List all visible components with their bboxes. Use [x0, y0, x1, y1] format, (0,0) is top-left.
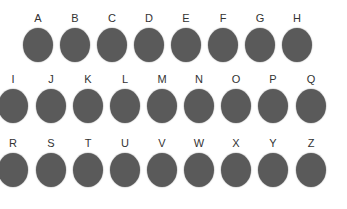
letter-label: L — [107, 73, 143, 85]
letter-label: P — [255, 73, 291, 85]
letter-option-g[interactable]: G — [242, 12, 278, 68]
circle-button[interactable] — [208, 28, 238, 62]
letter-option-u[interactable]: U — [107, 137, 143, 193]
letter-option-e[interactable]: E — [168, 12, 204, 68]
circle-button[interactable] — [73, 153, 103, 187]
letter-option-z[interactable]: Z — [293, 137, 329, 193]
letter-label: J — [33, 73, 69, 85]
letter-option-h[interactable]: H — [279, 12, 315, 68]
circle-button[interactable] — [258, 89, 288, 123]
letter-option-y[interactable]: Y — [255, 137, 291, 193]
letter-label: S — [33, 137, 69, 149]
circle-button[interactable] — [245, 28, 275, 62]
circle-button[interactable] — [296, 89, 326, 123]
circle-button[interactable] — [134, 28, 164, 62]
letter-option-n[interactable]: N — [181, 73, 217, 129]
circle-button[interactable] — [296, 153, 326, 187]
letter-option-o[interactable]: O — [218, 73, 254, 129]
circle-button[interactable] — [73, 89, 103, 123]
letter-label: U — [107, 137, 143, 149]
circle-button[interactable] — [282, 28, 312, 62]
circle-button[interactable] — [0, 89, 28, 123]
letter-label: X — [218, 137, 254, 149]
letter-option-r[interactable]: R — [0, 137, 31, 193]
letter-option-l[interactable]: L — [107, 73, 143, 129]
letter-option-i[interactable]: I — [0, 73, 31, 129]
letter-option-a[interactable]: A — [20, 12, 56, 68]
letter-label: M — [144, 73, 180, 85]
letter-option-p[interactable]: P — [255, 73, 291, 129]
letter-label: V — [144, 137, 180, 149]
letter-label: T — [70, 137, 106, 149]
circle-button[interactable] — [110, 153, 140, 187]
circle-button[interactable] — [60, 28, 90, 62]
letter-label: R — [0, 137, 31, 149]
letter-option-t[interactable]: T — [70, 137, 106, 193]
letter-label: C — [94, 12, 130, 24]
circle-button[interactable] — [36, 89, 66, 123]
letter-label: F — [205, 12, 241, 24]
letter-option-c[interactable]: C — [94, 12, 130, 68]
letter-option-b[interactable]: B — [57, 12, 93, 68]
letter-option-d[interactable]: D — [131, 12, 167, 68]
circle-button[interactable] — [147, 89, 177, 123]
letter-label: A — [20, 12, 56, 24]
letter-label: N — [181, 73, 217, 85]
circle-button[interactable] — [171, 28, 201, 62]
letter-label: Z — [293, 137, 329, 149]
letter-label: O — [218, 73, 254, 85]
circle-button[interactable] — [147, 153, 177, 187]
letter-label: B — [57, 12, 93, 24]
circle-button[interactable] — [36, 153, 66, 187]
letter-label: E — [168, 12, 204, 24]
circle-button[interactable] — [0, 153, 28, 187]
letter-label: Q — [293, 73, 329, 85]
circle-button[interactable] — [221, 153, 251, 187]
letter-label: Y — [255, 137, 291, 149]
letter-label: H — [279, 12, 315, 24]
letter-label: G — [242, 12, 278, 24]
letter-option-w[interactable]: W — [181, 137, 217, 193]
circle-button[interactable] — [221, 89, 251, 123]
letter-option-f[interactable]: F — [205, 12, 241, 68]
letter-option-x[interactable]: X — [218, 137, 254, 193]
circle-button[interactable] — [23, 28, 53, 62]
letter-label: I — [0, 73, 31, 85]
letter-label: D — [131, 12, 167, 24]
circle-button[interactable] — [184, 153, 214, 187]
letter-option-v[interactable]: V — [144, 137, 180, 193]
letter-label: W — [181, 137, 217, 149]
circle-button[interactable] — [258, 153, 288, 187]
circle-button[interactable] — [97, 28, 127, 62]
letter-option-s[interactable]: S — [33, 137, 69, 193]
circle-button[interactable] — [110, 89, 140, 123]
circle-button[interactable] — [184, 89, 214, 123]
letter-option-q[interactable]: Q — [293, 73, 329, 129]
letter-option-j[interactable]: J — [33, 73, 69, 129]
letter-label: K — [70, 73, 106, 85]
letter-option-k[interactable]: K — [70, 73, 106, 129]
letter-option-m[interactable]: M — [144, 73, 180, 129]
